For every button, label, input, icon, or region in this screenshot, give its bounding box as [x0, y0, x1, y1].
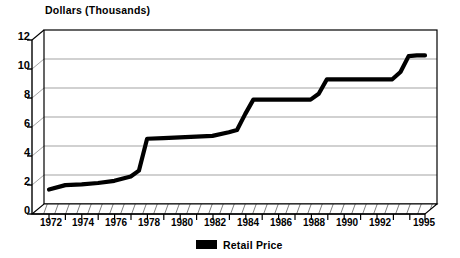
- floor-band-3d: [32, 204, 437, 214]
- chart-container: Dollars (Thousands) 12 10 8 6 4 2 0 1972…: [0, 0, 460, 258]
- legend-label-retail-price: Retail Price: [223, 239, 283, 251]
- legend-swatch-retail-price: [196, 240, 217, 249]
- chart-plot-svg: [0, 0, 460, 258]
- x-axis-ticks: [49, 214, 425, 220]
- y-axis-ticks: [27, 40, 32, 214]
